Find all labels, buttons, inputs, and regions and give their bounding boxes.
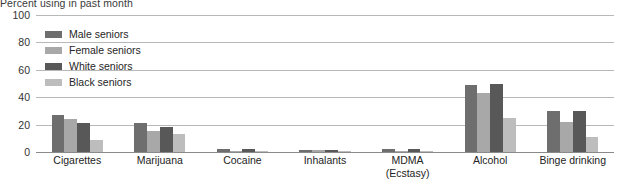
bar xyxy=(147,131,160,152)
legend-item-label: White seniors xyxy=(69,59,133,73)
x-axis-label: Marijuana xyxy=(119,154,202,167)
bar xyxy=(64,119,77,152)
bar xyxy=(299,150,312,152)
bar xyxy=(408,149,421,152)
x-axis-label-line2: (Ecstasy) xyxy=(366,167,449,180)
legend-item-label: Male seniors xyxy=(69,27,129,41)
bar xyxy=(255,151,268,152)
x-axis-label-line1: Alcohol xyxy=(473,154,507,166)
bar xyxy=(586,137,599,152)
bar-slot xyxy=(547,15,560,152)
bar xyxy=(338,151,351,152)
legend-swatch-icon xyxy=(45,47,62,54)
x-axis-label: MDMA(Ecstasy) xyxy=(366,154,449,180)
bar-slot xyxy=(382,15,395,152)
bar xyxy=(90,140,103,152)
bar-slot xyxy=(147,15,160,152)
bar xyxy=(490,84,503,153)
bar-group xyxy=(465,15,516,152)
bar-slot xyxy=(325,15,338,152)
bar-slot xyxy=(586,15,599,152)
bar-slot xyxy=(242,15,255,152)
bar-slot xyxy=(573,15,586,152)
x-axis-label-line1: MDMA xyxy=(392,154,424,166)
bar xyxy=(420,151,433,152)
bar-slot xyxy=(408,15,421,152)
legend-item-label: Female seniors xyxy=(69,43,141,57)
bar-slot xyxy=(338,15,351,152)
legend-swatch-icon xyxy=(45,31,62,38)
bar xyxy=(134,123,147,152)
bar xyxy=(230,151,243,152)
bar-group xyxy=(547,15,598,152)
bar-slot xyxy=(134,15,147,152)
bar xyxy=(503,118,516,152)
bar xyxy=(242,149,255,152)
bar xyxy=(547,111,560,152)
bar xyxy=(77,123,90,152)
bar xyxy=(465,85,478,152)
legend-swatch-icon xyxy=(45,63,62,70)
bar-slot xyxy=(395,15,408,152)
x-axis-label: Alcohol xyxy=(449,154,532,167)
y-axis-tick-label: 80 xyxy=(18,37,30,48)
bar-group xyxy=(382,15,433,152)
bar xyxy=(217,149,230,152)
bar xyxy=(477,93,490,152)
bar xyxy=(325,150,338,152)
y-axis-tick-label: 0 xyxy=(24,147,30,158)
bar xyxy=(560,122,573,152)
bar xyxy=(573,111,586,152)
y-axis-tick-label: 40 xyxy=(18,92,30,103)
bar-slot xyxy=(490,15,503,152)
x-axis-label: Cigarettes xyxy=(36,154,119,167)
bar xyxy=(160,127,173,152)
x-axis-label: Cocaine xyxy=(201,154,284,167)
bar-slot xyxy=(560,15,573,152)
bar-slot xyxy=(312,15,325,152)
bar-slot xyxy=(503,15,516,152)
legend-swatch-icon xyxy=(45,79,62,86)
bar-slot xyxy=(230,15,243,152)
x-axis-label-line1: Marijuana xyxy=(137,154,183,166)
bar-group xyxy=(134,15,185,152)
bar-slot xyxy=(160,15,173,152)
bar xyxy=(382,149,395,152)
x-axis-label-line1: Cocaine xyxy=(223,154,262,166)
bar-group xyxy=(217,15,268,152)
bar-slot xyxy=(173,15,186,152)
bar-slot xyxy=(477,15,490,152)
axis-baseline xyxy=(36,152,614,153)
x-axis-label: Binge drinking xyxy=(531,154,614,167)
bar xyxy=(395,151,408,152)
bar-group xyxy=(299,15,350,152)
bar-slot xyxy=(255,15,268,152)
x-axis-label-line1: Binge drinking xyxy=(539,154,606,166)
y-axis-tick-label: 100 xyxy=(12,10,30,21)
x-axis-label: Inhalants xyxy=(284,154,367,167)
legend-item-label: Black seniors xyxy=(69,75,131,89)
x-axis-label-line1: Inhalants xyxy=(304,154,347,166)
bar-slot xyxy=(217,15,230,152)
y-axis-tick-label: 20 xyxy=(18,119,30,130)
bar xyxy=(312,150,325,152)
bar-slot xyxy=(465,15,478,152)
bar-chart: Percent using in past month 020406080100… xyxy=(0,0,618,187)
x-axis-label-line1: Cigarettes xyxy=(53,154,101,166)
y-axis-tick-label: 60 xyxy=(18,64,30,75)
x-axis-labels: CigarettesMarijuanaCocaineInhalantsMDMA(… xyxy=(36,154,614,187)
bar-slot xyxy=(420,15,433,152)
bar-slot xyxy=(299,15,312,152)
bar xyxy=(52,115,65,152)
bar xyxy=(173,134,186,152)
